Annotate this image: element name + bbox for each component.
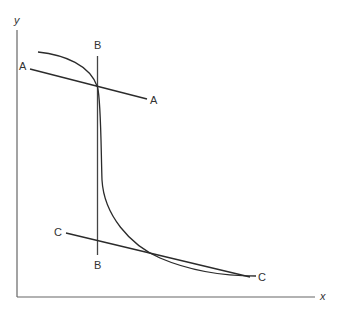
y-axis-label: y [14,15,20,26]
curve [38,52,256,276]
line-b-top-label: B [94,40,101,51]
line-c-right-label: C [258,272,266,283]
line-c-left-label: C [54,227,62,238]
line-a-right-label: A [150,95,157,106]
line-b-bottom-label: B [94,260,101,271]
diagram-canvas [0,0,339,311]
line-a [30,69,147,99]
line-a-left-label: A [19,61,26,72]
x-axis-label: x [320,291,326,302]
